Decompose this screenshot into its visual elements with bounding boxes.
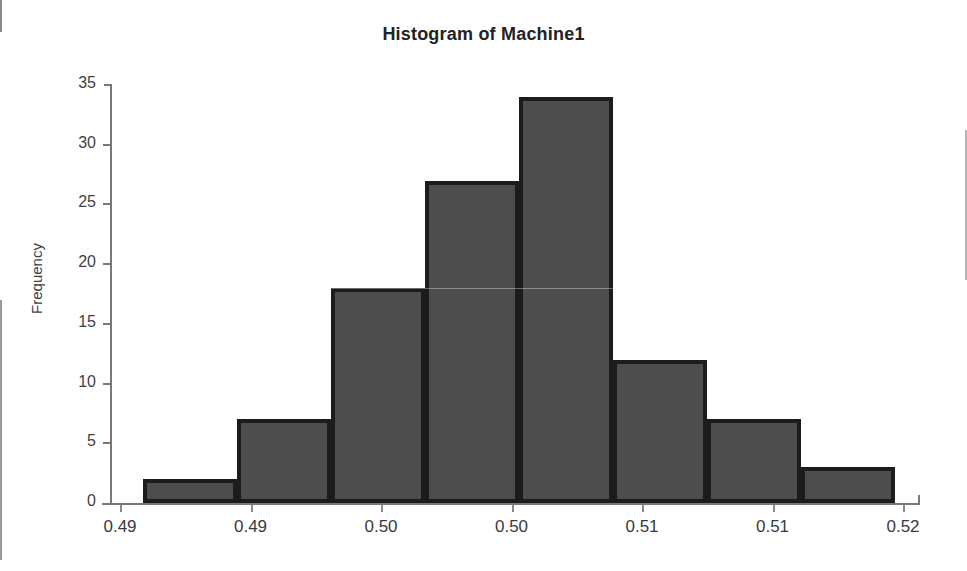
histogram-bar [237,419,331,503]
histogram-bar [331,288,425,503]
histogram-bar [425,181,519,503]
scan-artifact-line [112,288,812,289]
x-axis-tick [381,505,383,512]
y-axis-tick-label: 30 [52,134,96,152]
x-axis-tick-label: 0.51 [602,517,682,537]
histogram-bar [519,97,613,503]
histogram-bar [613,360,707,503]
histogram-bar [707,419,801,503]
x-axis-tick [120,505,122,512]
x-axis-tick-label: 0.49 [211,517,291,537]
x-axis-tick-label: 0.50 [472,517,552,537]
page-edge-mark-left [0,300,2,560]
histogram-bar [801,467,895,503]
y-axis-tick-label: 15 [52,313,96,331]
x-axis-tick [773,505,775,512]
x-axis-tick-label: 0.49 [80,517,160,537]
x-axis-tick-label: 0.51 [733,517,813,537]
x-axis-line [110,503,920,505]
x-axis-tick-label: 0.50 [341,517,421,537]
y-axis-tick-label: 20 [52,253,96,271]
x-axis-end-cap [918,495,920,505]
x-axis-tick-label: 0.52 [863,517,943,537]
x-axis-tick [251,505,253,512]
y-axis-tick-label: 10 [52,373,96,391]
histogram-bar [143,479,237,503]
y-axis-tick-label: 5 [52,432,96,450]
y-axis-tick-label: 0 [52,492,96,510]
plot-area [110,85,910,503]
y-axis-tick-label: 35 [52,74,96,92]
chart-title: Histogram of Machine1 [0,24,967,45]
x-axis-tick [512,505,514,512]
x-axis-tick [642,505,644,512]
y-axis-title: Frequency [28,219,45,339]
y-axis-tick-label: 25 [52,193,96,211]
x-axis-tick [903,505,905,512]
